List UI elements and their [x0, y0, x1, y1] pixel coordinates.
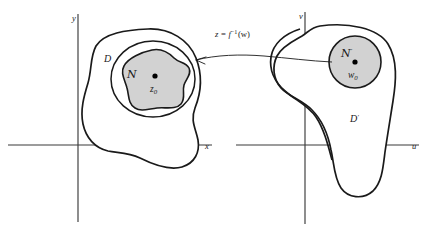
right-plane-group: N′ w0 D′ v u: [236, 11, 419, 224]
label-n-prime-base: N: [340, 47, 351, 60]
label-mapping-formula: z=f−1(w): [214, 28, 250, 39]
label-axis-u: u: [412, 141, 416, 151]
left-plane-group: D N z0 y x: [8, 13, 212, 222]
label-axis-x: x: [204, 141, 209, 151]
label-domain-d: D: [103, 53, 112, 64]
label-z0-subscript: 0: [154, 88, 158, 95]
formula-exponent: −1: [231, 28, 238, 35]
label-axis-y: y: [71, 13, 76, 23]
w0-point-marker: [352, 59, 357, 64]
formula-lhs: z: [214, 29, 219, 39]
label-w0-subscript: 0: [354, 74, 358, 81]
label-neighborhood-n: N: [126, 68, 137, 81]
formula-equals: =: [221, 29, 226, 39]
z0-point-marker: [152, 73, 157, 78]
label-axis-v: v: [299, 11, 303, 21]
formula-argument: (w): [238, 29, 250, 39]
complex-mapping-diagram: D N z0 y x N′ w0 D′ v u: [0, 0, 423, 229]
figure-root: D N z0 y x N′ w0 D′ v u: [0, 0, 423, 229]
